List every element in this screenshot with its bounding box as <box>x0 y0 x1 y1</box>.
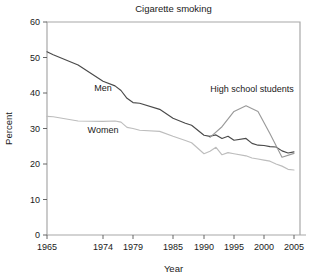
x-axis-title: Year <box>164 263 183 274</box>
x-tick-label: 2000 <box>254 242 274 252</box>
chart-figure: 0102030405060196519741979198519901995200… <box>0 0 312 279</box>
series-label-women: Women <box>88 125 119 135</box>
y-tick-label: 0 <box>35 230 40 240</box>
x-tick-label: 1995 <box>224 242 244 252</box>
data-series-group <box>47 52 294 170</box>
y-tick-label: 50 <box>30 53 40 63</box>
y-axis-title: Percent <box>3 112 14 145</box>
x-tick-label: 1974 <box>93 242 113 252</box>
y-tick-label: 10 <box>30 195 40 205</box>
series-label-men: Men <box>94 83 112 93</box>
x-tick-label: 1985 <box>163 242 183 252</box>
series-line-high-school-students <box>210 106 294 157</box>
x-tick-label: 2005 <box>284 242 304 252</box>
y-tick-label: 30 <box>30 124 40 134</box>
x-tick-label: 1979 <box>123 242 143 252</box>
x-tick-label: 1965 <box>37 242 57 252</box>
chart-title: Cigarette smoking <box>135 3 212 14</box>
y-tick-label: 20 <box>30 159 40 169</box>
series-line-men <box>47 52 294 153</box>
y-tick-label: 60 <box>30 17 40 27</box>
series-label-high-school-students: High school students <box>210 84 294 94</box>
cigarette-smoking-line-chart: 0102030405060196519741979198519901995200… <box>0 0 312 279</box>
x-tick-label: 1990 <box>194 242 214 252</box>
series-line-women <box>47 116 294 170</box>
y-tick-label: 40 <box>30 88 40 98</box>
plot-border <box>47 22 300 235</box>
